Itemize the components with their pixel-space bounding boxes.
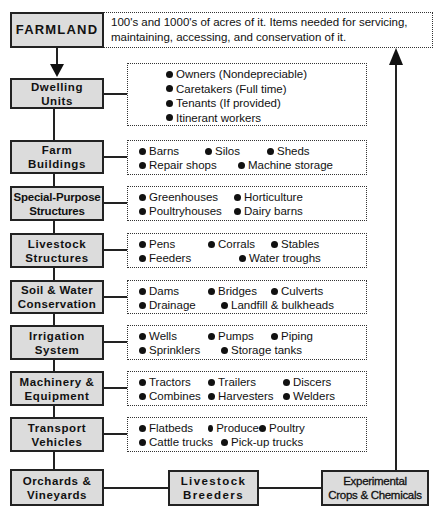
item-label: Combines (149, 389, 201, 403)
category-label: Equipment (25, 389, 90, 403)
category-label: Irrigation (29, 329, 85, 343)
item-label: Sprinklers (149, 343, 200, 357)
farmland-label: FARMLAND (16, 23, 99, 37)
connector (104, 387, 127, 389)
item-label: Flatbeds (149, 421, 193, 435)
item-label: Tenants (If provided) (176, 96, 281, 111)
box-label: Livestock (181, 474, 247, 488)
connector (104, 296, 127, 298)
connector-orchards-breeders (104, 487, 168, 489)
category-label: Vehicles (32, 435, 83, 449)
box-label: Experimental (343, 474, 407, 488)
bullet-icon (208, 425, 213, 432)
description-line-2: maintaining, accessing, and conservation… (111, 30, 426, 45)
down-arrow-icon (50, 64, 64, 77)
bullet-icon (221, 347, 228, 354)
bullet-icon (208, 393, 215, 400)
connector (104, 156, 127, 158)
item-label: Landfill & bulkheads (231, 298, 334, 312)
category-label: Livestock (28, 237, 86, 251)
bullet-icon (139, 208, 146, 215)
connector (104, 249, 127, 251)
category-label: Farm (42, 143, 73, 157)
items-irrigation-system: Wells Pumps Piping Sprinklers Storage ta… (127, 325, 367, 360)
bullet-icon (259, 425, 266, 432)
category-label: Machinery & (20, 375, 95, 389)
item-label: Sheds (277, 144, 310, 158)
item-label: Produce (216, 421, 259, 435)
bullet-icon (208, 333, 215, 340)
bullet-icon (139, 162, 146, 169)
bullet-icon (283, 393, 290, 400)
category-label: Conservation (18, 297, 96, 311)
bullet-icon (239, 255, 246, 262)
category-label: Transport (28, 421, 86, 435)
category-label: Special-Purpose (13, 190, 100, 204)
category-label: Dwelling (31, 80, 83, 94)
bullet-icon (234, 208, 241, 215)
connector-breeders-experimental (259, 487, 321, 489)
bullet-icon (166, 100, 173, 107)
bullet-icon (139, 347, 146, 354)
box-experimental-crops-chemicals: Experimental Crops & Chemicals (321, 470, 429, 506)
item-label: Greenhouses (149, 190, 218, 204)
item-label: Horticulture (244, 190, 303, 204)
items-special-purpose-structures: Greenhouses Horticulture Poultryhouses D… (127, 186, 367, 221)
category-livestock-structures: Livestock Structures (10, 233, 104, 268)
item-label: Pens (149, 237, 175, 251)
item-label: Poultryhouses (149, 204, 222, 218)
category-label: Buildings (28, 157, 86, 171)
item-label: Barns (149, 144, 179, 158)
bullet-icon (139, 333, 146, 340)
box-livestock-breeders: Livestock Breeders (168, 470, 259, 506)
bullet-icon (139, 379, 146, 386)
item-label: Drainage (149, 298, 196, 312)
bullet-icon (208, 288, 215, 295)
item-label: Dairy barns (244, 204, 303, 218)
item-label: Itinerant workers (176, 111, 261, 126)
item-label: Harvesters (218, 389, 274, 403)
bullet-icon (139, 241, 146, 248)
items-dwelling-units: Owners (Nondepreciable) Caretakers (Full… (127, 63, 367, 126)
right-return-line (395, 62, 397, 471)
item-label: Pick-up trucks (231, 435, 303, 449)
category-label: System (35, 343, 80, 357)
bullet-icon (139, 288, 146, 295)
item-label: Cattle trucks (149, 435, 213, 449)
items-transport-vehicles: Flatbeds Produce Poultry Cattle trucks P… (127, 417, 367, 452)
item-label: Corrals (218, 237, 255, 251)
bullet-icon (139, 393, 146, 400)
bullet-icon (234, 194, 241, 201)
box-label: Breeders (183, 488, 244, 502)
items-machinery-equipment: Tractors Trailers Discers Combines Harve… (127, 371, 367, 406)
description-line-1: 100's and 1000's of acres of it. Items n… (111, 15, 426, 30)
item-label: Tractors (149, 375, 191, 389)
items-livestock-structures: Pens Corrals Stables Feeders Water troug… (127, 233, 367, 268)
category-label: Structures (29, 204, 85, 218)
item-label: Silos (215, 144, 240, 158)
category-dwelling-units: Dwelling Units (10, 78, 104, 109)
item-label: Piping (281, 329, 313, 343)
category-irrigation-system: Irrigation System (10, 325, 104, 360)
connector (104, 341, 127, 343)
item-label: Wells (149, 329, 177, 343)
category-transport-vehicles: Transport Vehicles (10, 417, 104, 452)
item-label: Welders (293, 389, 335, 403)
bullet-icon (166, 85, 173, 92)
bullet-icon (139, 439, 146, 446)
bullet-icon (166, 114, 173, 121)
connector (104, 202, 127, 204)
connector (104, 93, 127, 95)
bullet-icon (208, 379, 215, 386)
item-label: Culverts (281, 284, 323, 298)
bullet-icon (271, 241, 278, 248)
bullet-icon (139, 194, 146, 201)
item-label: Storage tanks (231, 343, 302, 357)
bullet-icon (267, 148, 274, 155)
category-label: Soil & Water (21, 283, 93, 297)
bullet-icon (221, 302, 228, 309)
item-label: Feeders (149, 251, 191, 265)
category-farm-buildings: Farm Buildings (10, 140, 104, 174)
up-arrow-icon (389, 48, 403, 65)
item-label: Poultry (269, 421, 305, 435)
